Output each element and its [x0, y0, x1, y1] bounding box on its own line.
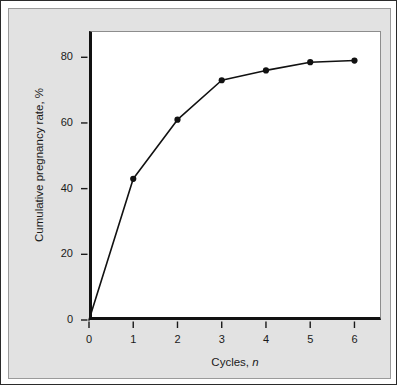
y-tick-label: 80 — [47, 50, 73, 62]
data-point-marker — [130, 176, 136, 182]
data-point-marker — [174, 117, 180, 123]
x-tick-label: 4 — [255, 333, 277, 345]
x-tick-label: 3 — [211, 333, 233, 345]
data-point-marker — [351, 57, 357, 63]
x-tick-label: 0 — [78, 333, 100, 345]
data-point-marker — [219, 77, 225, 83]
figure-frame: Cumulative pregnancy rate, % Cycles, n 0… — [0, 0, 397, 385]
x-tick-label: 2 — [166, 333, 188, 345]
y-tick-marks — [81, 57, 88, 320]
data-point-marker — [307, 59, 313, 65]
data-point-marker — [263, 67, 269, 73]
x-tick-marks — [89, 322, 354, 329]
y-tick-label: 20 — [47, 247, 73, 259]
y-tick-label: 0 — [47, 313, 73, 325]
plot-graphics — [9, 9, 397, 385]
y-tick-label: 60 — [47, 116, 73, 128]
x-tick-label: 5 — [299, 333, 321, 345]
x-tick-label: 1 — [122, 333, 144, 345]
x-tick-label: 6 — [343, 333, 365, 345]
data-line — [89, 61, 354, 320]
y-tick-label: 40 — [47, 182, 73, 194]
figure-panel: Cumulative pregnancy rate, % Cycles, n 0… — [8, 8, 391, 379]
